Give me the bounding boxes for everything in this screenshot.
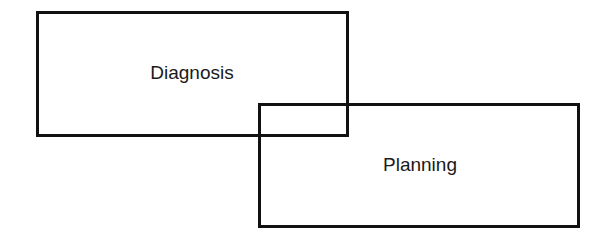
diagnosis-label: Diagnosis xyxy=(150,62,233,84)
planning-label: Planning xyxy=(383,154,457,176)
